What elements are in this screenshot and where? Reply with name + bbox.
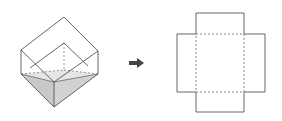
cube-net: [177, 13, 265, 112]
net-bottom-flap: [196, 92, 244, 112]
cube-figure: [21, 17, 98, 107]
diagram-canvas: [0, 0, 282, 121]
net-right-flap: [244, 34, 265, 92]
right-arrow-icon: [129, 58, 144, 68]
net-top-flap: [196, 13, 244, 34]
net-left-flap: [177, 34, 196, 92]
diagram-svg: [0, 0, 282, 121]
net-center-square: [196, 34, 244, 92]
